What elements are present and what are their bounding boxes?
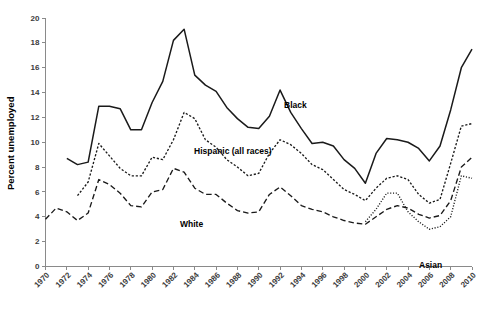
x-tick-label: 2002	[374, 270, 393, 289]
y-tick-label: 18	[31, 38, 40, 47]
x-axis-ticks: 1970197219741976197819801982198419861988…	[32, 267, 478, 290]
x-tick-label: 2006	[416, 270, 435, 289]
x-tick-label: 1992	[267, 270, 286, 289]
y-tick-label: 2	[35, 237, 40, 246]
x-tick-label: 2000	[352, 270, 371, 289]
x-tick-label: 1998	[331, 270, 350, 289]
data-series-group	[46, 29, 473, 229]
y-tick-label: 20	[31, 14, 40, 23]
x-tick-label: 1982	[160, 270, 179, 289]
unemployment-line-chart: 02468101214161820 1970197219741976197819…	[0, 0, 482, 329]
series-label-asian: Asian	[419, 260, 442, 270]
x-tick-label: 1976	[96, 270, 115, 289]
series-line-asian	[365, 176, 472, 229]
y-axis: 02468101214161820	[31, 14, 46, 272]
x-tick-label: 1994	[288, 270, 307, 289]
y-tick-label: 0	[35, 262, 40, 271]
x-tick-label: 1986	[203, 270, 222, 289]
series-inline-labels: BlackHispanic (all races)WhiteAsian	[180, 100, 442, 270]
series-label-white: White	[180, 219, 203, 229]
x-tick-label: 1972	[54, 270, 73, 289]
y-axis-title: Percent unemployed	[5, 96, 16, 190]
x-tick-label: 1996	[310, 270, 329, 289]
x-tick-label: 1984	[182, 270, 201, 289]
y-tick-label: 12	[31, 113, 40, 122]
x-tick-label: 1980	[139, 270, 158, 289]
x-tick-label: 2010	[459, 270, 478, 289]
x-tick-label: 1978	[118, 270, 137, 289]
x-tick-label: 1970	[32, 270, 51, 289]
x-tick-label: 1990	[246, 270, 265, 289]
y-tick-label: 10	[31, 138, 40, 147]
y-tick-label: 6	[35, 188, 40, 197]
series-line-hispanic-all-races	[77, 112, 472, 203]
series-line-black	[67, 29, 472, 183]
x-tick-label: 1974	[75, 270, 94, 289]
x-tick-label: 2008	[438, 270, 457, 289]
chart-canvas: 02468101214161820 1970197219741976197819…	[0, 0, 482, 329]
y-tick-label: 8	[35, 163, 40, 172]
x-tick-label: 1988	[224, 270, 243, 289]
y-tick-label: 4	[35, 212, 40, 221]
y-tick-label: 16	[31, 63, 40, 72]
y-tick-label: 14	[31, 88, 40, 97]
series-line-white	[46, 157, 473, 224]
series-label-black: Black	[284, 100, 307, 110]
x-tick-label: 2004	[395, 270, 414, 289]
y-axis-ticks: 02468101214161820	[31, 14, 46, 272]
series-label-hispanic-all-races: Hispanic (all races)	[194, 146, 272, 156]
x-axis: 1970197219741976197819801982198419861988…	[32, 267, 478, 290]
